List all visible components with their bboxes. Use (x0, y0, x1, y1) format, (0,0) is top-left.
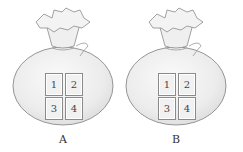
card-1: 1 (158, 73, 176, 96)
card-4: 4 (65, 97, 83, 120)
card-3: 3 (45, 97, 63, 120)
card-1: 1 (45, 73, 63, 96)
bag-a-label: A (53, 133, 73, 146)
bag-a: 1 2 3 4 A (0, 0, 122, 152)
bag-b-label: B (166, 133, 186, 146)
bag-b: 1 2 3 4 B (113, 0, 235, 152)
card-3: 3 (158, 97, 176, 120)
card-2: 2 (65, 73, 83, 96)
card-2: 2 (178, 73, 196, 96)
card-4: 4 (178, 97, 196, 120)
